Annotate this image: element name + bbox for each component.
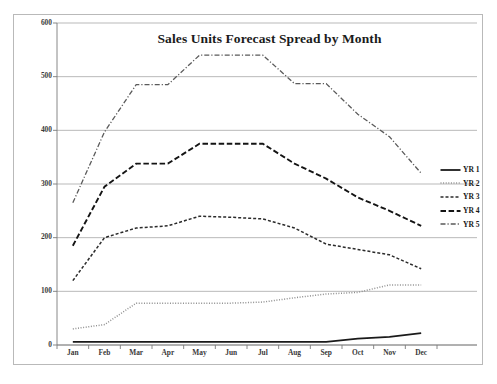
- y-tick-label: 200: [18, 233, 52, 241]
- legend-item-yr-5[interactable]: YR 5: [440, 217, 484, 231]
- legend-line-swatch-icon: [440, 192, 461, 202]
- y-tick-label: 0: [18, 341, 52, 349]
- legend-item-yr-1[interactable]: YR 1: [440, 163, 484, 177]
- x-tick-label: Aug: [280, 349, 310, 357]
- legend-line-swatch-icon: [440, 165, 461, 175]
- x-tick-label: Sep: [311, 349, 341, 357]
- series-line-yr-5: [73, 55, 421, 203]
- chart-legend: YR 1YR 2YR 3YR 4YR 5: [440, 163, 484, 231]
- y-tick-label: 500: [18, 72, 52, 80]
- series-line-yr-4: [73, 144, 421, 246]
- x-tick-label: Jun: [216, 349, 246, 357]
- legend-item-label: YR 1: [463, 165, 480, 174]
- legend-line-swatch-icon: [440, 206, 461, 216]
- chart-plot-canvas: [0, 0, 497, 384]
- gridlines-group: [57, 23, 477, 345]
- legend-item-yr-4[interactable]: YR 4: [440, 204, 484, 218]
- y-tick-label: 600: [18, 19, 52, 27]
- legend-item-yr-3[interactable]: YR 3: [440, 190, 484, 204]
- legend-line-swatch-icon: [440, 178, 461, 188]
- series-line-yr-1: [73, 333, 421, 342]
- x-tick-label: Feb: [90, 349, 120, 357]
- x-tick-label: Mar: [121, 349, 151, 357]
- y-tick-label: 100: [18, 287, 52, 295]
- legend-item-label: YR 4: [463, 206, 480, 215]
- series-line-yr-3: [73, 216, 421, 280]
- legend-item-yr-2[interactable]: YR 2: [440, 177, 484, 191]
- y-tick-label: 300: [18, 180, 52, 188]
- y-tick-label: 400: [18, 126, 52, 134]
- legend-item-label: YR 2: [463, 179, 480, 188]
- x-tick-label: Nov: [375, 349, 405, 357]
- chart-title: Sales Units Forecast Spread by Month: [0, 31, 497, 47]
- x-tick-label: Dec: [406, 349, 436, 357]
- legend-item-label: YR 5: [463, 220, 480, 229]
- axis-ticks-group: [53, 23, 437, 349]
- x-tick-label: Oct: [343, 349, 373, 357]
- legend-item-label: YR 3: [463, 192, 480, 201]
- series-group: [73, 55, 421, 342]
- x-tick-label: May: [185, 349, 215, 357]
- x-tick-label: Apr: [153, 349, 183, 357]
- legend-line-swatch-icon: [440, 219, 461, 229]
- x-tick-label: Jul: [248, 349, 278, 357]
- x-tick-label: Jan: [58, 349, 88, 357]
